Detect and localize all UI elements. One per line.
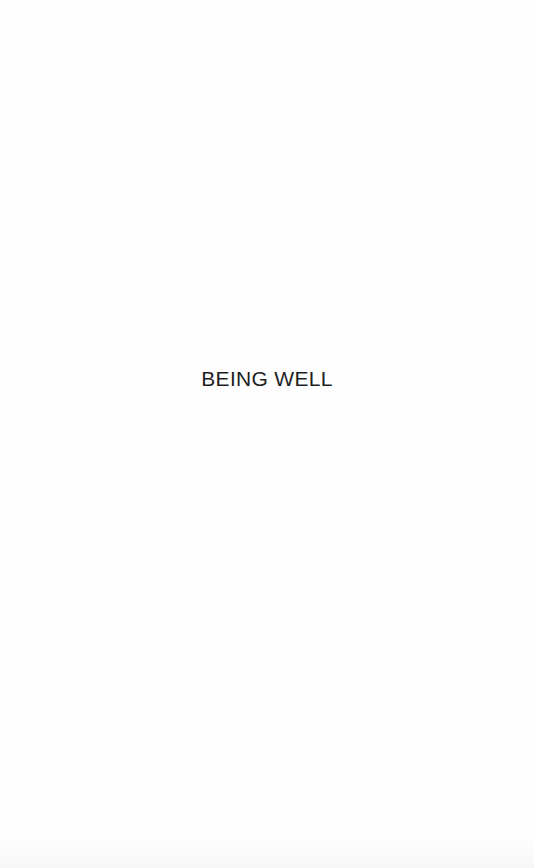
book-page: BEING WELL: [0, 0, 534, 868]
page-title: BEING WELL: [0, 364, 534, 394]
page-scan-shade: [0, 838, 534, 868]
